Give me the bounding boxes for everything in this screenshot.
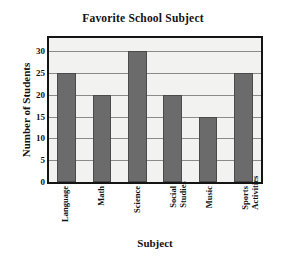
bar-slot xyxy=(122,38,152,182)
bar-slot xyxy=(158,38,188,182)
x-axis-tick-labels: LanguageMathScienceSocialStudiesMusicSpo… xyxy=(47,186,263,236)
y-tick-label: 30 xyxy=(20,47,45,56)
bar[interactable] xyxy=(199,117,218,182)
x-tick-slot: Language xyxy=(50,186,81,236)
y-tick-label: 10 xyxy=(20,134,45,143)
bar-slot xyxy=(193,38,223,182)
x-tick-label: SocialStudies xyxy=(168,186,177,208)
y-tick-label: 25 xyxy=(20,68,45,77)
x-tick-slot: SportsActivities xyxy=(230,186,261,236)
bar-slot xyxy=(52,38,82,182)
bar[interactable] xyxy=(57,73,76,182)
bar[interactable] xyxy=(93,95,112,182)
x-tick-label: Math xyxy=(96,186,105,206)
x-tick-slot: Math xyxy=(86,186,117,236)
x-axis-label: Subject xyxy=(47,237,263,249)
plot-area xyxy=(47,36,263,184)
bar-series xyxy=(49,38,261,182)
y-axis-tick-labels: 051015202530 xyxy=(20,36,45,188)
x-tick-label-line2: Studies xyxy=(178,181,187,207)
x-tick-label: Language xyxy=(60,186,69,222)
y-tick-label: 0 xyxy=(20,178,45,187)
bar[interactable] xyxy=(234,73,253,182)
y-tick-label: 20 xyxy=(20,90,45,99)
x-tick-slot: Music xyxy=(194,186,225,236)
bar-chart-figure: Favorite School Subject Number of Studen… xyxy=(0,0,286,258)
x-tick-label-line2: Activities xyxy=(250,176,259,210)
x-tick-slot: Science xyxy=(122,186,153,236)
bar-slot xyxy=(87,38,117,182)
bar[interactable] xyxy=(163,95,182,182)
x-tick-label: SportsActivities xyxy=(240,186,249,210)
y-tick-label: 15 xyxy=(20,112,45,121)
x-tick-label: Music xyxy=(204,186,213,208)
x-tick-slot: SocialStudies xyxy=(158,186,189,236)
y-tick-label: 5 xyxy=(20,156,45,165)
bar[interactable] xyxy=(128,51,147,182)
bar-slot xyxy=(228,38,258,182)
chart-title: Favorite School Subject xyxy=(0,12,286,24)
x-tick-label: Science xyxy=(132,186,141,213)
